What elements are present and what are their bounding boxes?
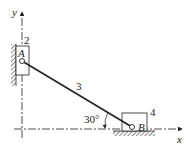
- mechanism-diagram: y x 2 A 4 B 3 30°: [0, 0, 194, 149]
- joint-a-label: A: [17, 47, 25, 59]
- joint-b-pin: [130, 125, 135, 130]
- connecting-rod-3: [22, 61, 132, 127]
- joint-a-pin: [20, 59, 25, 64]
- y-axis-label: y: [11, 6, 17, 18]
- x-axis-label: x: [176, 133, 182, 145]
- angle-arc: [105, 112, 108, 128]
- vertical-wall: [11, 44, 16, 86]
- slider-4-label: 4: [150, 106, 156, 118]
- angle-label: 30°: [84, 113, 99, 125]
- ground: [113, 131, 155, 136]
- joint-b-label: B: [138, 121, 145, 133]
- rod-3-label: 3: [76, 80, 82, 92]
- slider-2-label: 2: [24, 34, 30, 46]
